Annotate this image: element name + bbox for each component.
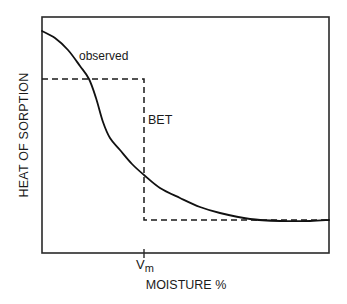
observed-annotation: observed — [79, 49, 128, 63]
bet-dashed-line — [42, 79, 329, 220]
chart-canvas — [0, 0, 347, 304]
bet-annotation: BET — [148, 113, 172, 127]
vm-subscript: m — [145, 262, 154, 274]
x-axis-label: MOISTURE % — [146, 278, 227, 292]
y-axis-label: HEAT OF SORPTION — [17, 73, 31, 198]
vm-main: V — [136, 257, 145, 272]
vm-tick-label: Vm — [136, 257, 154, 274]
